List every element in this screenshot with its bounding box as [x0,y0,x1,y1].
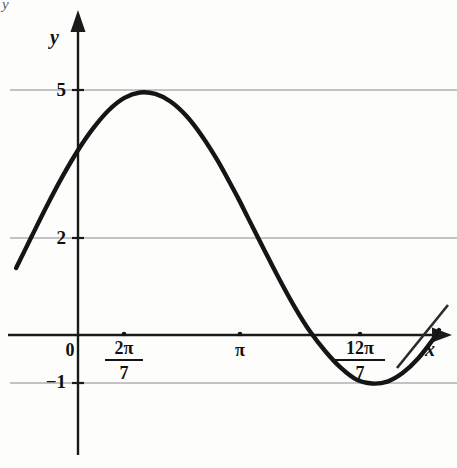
graph-figure: y y x 5 2 −1 0 2π 7 [0,0,457,468]
xtick-2pi-over-7 [122,332,127,337]
x-tick-label-12pi-over-7: 12π 7 [334,339,386,382]
y-axis-arrowhead [71,10,86,32]
fraction-numerator: 12π [334,339,386,358]
y-tick-label-5: 5 [38,79,66,101]
sinusoid-plot [0,0,457,468]
x-tick-label-2pi-over-7: 2π 7 [104,339,144,382]
x-axis-label: x [425,338,435,361]
y-tick-label-minus-1: −1 [24,371,66,393]
x-tick-label-pi: π [226,340,254,361]
fraction-numerator: 2π [104,339,144,358]
xtick-pi [238,332,243,337]
fraction-bar [335,359,385,361]
axis-lines [8,10,452,455]
y-tick-label-2: 2 [38,227,66,249]
fraction-denominator: 7 [104,363,144,382]
fraction-denominator: 7 [334,363,386,382]
fraction-bar [105,359,143,361]
x-tick-label-origin: 0 [58,340,82,361]
xtick-12pi-over-7 [358,332,363,337]
y-axis-label: y [50,26,59,49]
